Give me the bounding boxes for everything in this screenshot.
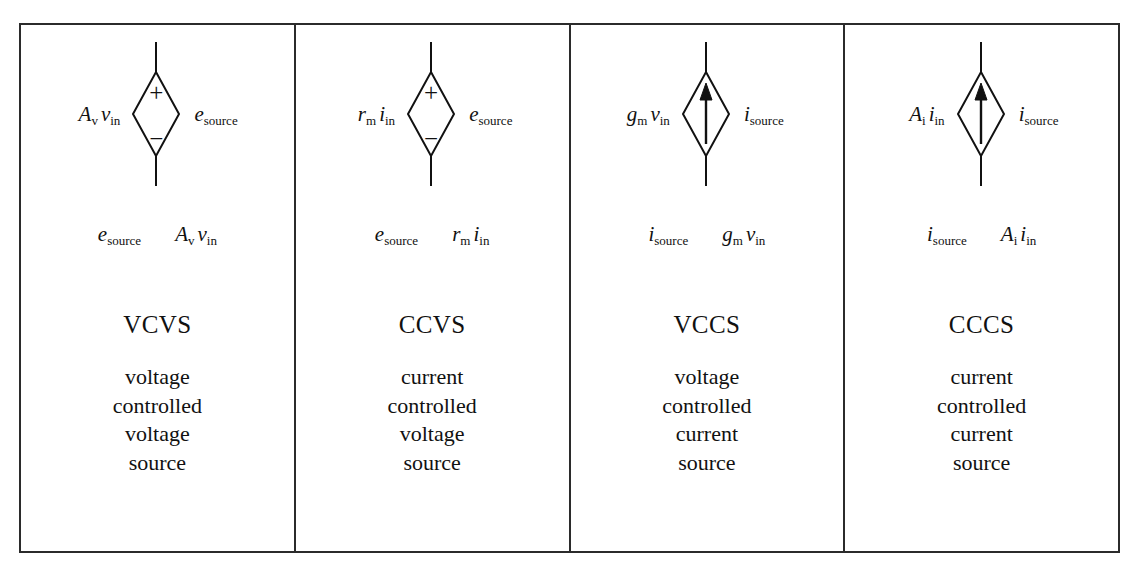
control-quantity-base: g [627, 102, 638, 126]
source-description: currentcontrolledcurrentsource [937, 363, 1026, 477]
control-quantity: gmvin [627, 102, 670, 126]
relation-rhs-base: g [722, 222, 733, 246]
description-line: source [113, 449, 202, 478]
control-quantity-base-2: v [101, 102, 110, 126]
control-quantity-base: A [909, 102, 922, 126]
relation-row: esourcermiin [296, 203, 569, 265]
minus-sign: − [128, 126, 184, 151]
relation-lhs: isource [648, 222, 688, 247]
control-quantity-subscript-2: in [110, 113, 120, 128]
source-description: currentcontrolledvoltagesource [388, 363, 477, 477]
description-line: current [662, 420, 751, 449]
description-line: voltage [113, 363, 202, 392]
description-line: current [388, 363, 477, 392]
control-quantity-base-2: i [929, 102, 935, 126]
source-panel-ccvs: rmiin+−esourceesourcermiinCCVScurrentcon… [296, 25, 571, 551]
plus-sign: + [403, 80, 459, 105]
symbol-row: Aiiinisource [845, 25, 1118, 203]
relation-row: isourceAiiin [845, 203, 1118, 265]
relation-rhs-subscript-2: in [207, 233, 217, 248]
relation-rhs-base-2: v [197, 222, 206, 246]
control-quantity-subscript-2: in [385, 113, 395, 128]
symbol-row: Avvin+−esource [21, 25, 294, 203]
control-quantity: Avvin [79, 102, 121, 126]
symbol-row: gmvinisource [571, 25, 844, 203]
control-quantity: rmiin [358, 102, 395, 126]
relation-rhs: rmiin [452, 222, 489, 247]
description-line: voltage [662, 363, 751, 392]
relation-rhs-subscript-2: in [479, 233, 489, 248]
control-quantity-subscript: i [922, 113, 926, 128]
relation-row: esourceAvvin [21, 203, 294, 265]
relation-rhs-base: A [1001, 222, 1014, 246]
description-line: source [937, 449, 1026, 478]
symbol-row: rmiin+−esource [296, 25, 569, 203]
source-quantity-subscript: source [750, 113, 784, 128]
control-quantity: Aiiin [909, 102, 944, 126]
source-quantity: isource [744, 102, 784, 126]
source-description: voltagecontrolledcurrentsource [662, 363, 751, 477]
current-source-symbol [953, 40, 1009, 188]
relation-rhs: gmvin [722, 222, 765, 247]
minus-sign: − [403, 126, 459, 151]
description-line: controlled [388, 392, 477, 421]
source-acronym: VCCS [673, 311, 740, 339]
source-panel-vccs: gmvinisourceisourcegmvinVCCSvoltagecontr… [571, 25, 846, 551]
relation-lhs: isource [927, 222, 967, 247]
source-quantity-label: esource [184, 104, 286, 125]
source-panel-cccs: AiiinisourceisourceAiiinCCCScurrentcontr… [845, 25, 1118, 551]
description-line: current [937, 363, 1026, 392]
description-line: source [662, 449, 751, 478]
control-quantity-label: Avvin [28, 104, 128, 125]
relation-rhs-base-2: v [746, 222, 755, 246]
relation-rhs: Aiiin [1001, 222, 1036, 247]
control-quantity-label: gmvin [578, 104, 678, 125]
control-quantity-base: A [79, 102, 92, 126]
source-acronym: VCVS [123, 311, 191, 339]
relation-lhs-base: i [927, 222, 933, 246]
plus-sign: + [128, 80, 184, 105]
source-quantity-subscript: source [204, 113, 238, 128]
source-quantity-base: i [744, 102, 750, 126]
relation-rhs-subscript: v [188, 233, 195, 248]
control-quantity-label: Aiiin [853, 104, 953, 125]
description-line: voltage [388, 420, 477, 449]
control-quantity-subscript: v [91, 113, 98, 128]
relation-lhs: esource [375, 222, 418, 247]
relation-lhs: esource [98, 222, 141, 247]
control-quantity-subscript: m [366, 113, 376, 128]
source-quantity-subscript: source [1024, 113, 1058, 128]
control-quantity-base-2: v [650, 102, 659, 126]
relation-rhs-subscript: m [460, 233, 470, 248]
source-acronym: CCCS [949, 311, 1015, 339]
relation-lhs-base: e [375, 222, 384, 246]
description-line: voltage [113, 420, 202, 449]
source-panel-vcvs: Avvin+−esourceesourceAvvinVCVSvoltagecon… [21, 25, 296, 551]
controlled-source-figure: Avvin+−esourceesourceAvvinVCVSvoltagecon… [19, 23, 1120, 553]
description-line: controlled [113, 392, 202, 421]
relation-rhs-base: A [175, 222, 188, 246]
relation-rhs-subscript-2: in [755, 233, 765, 248]
description-line: controlled [937, 392, 1026, 421]
source-description: voltagecontrolledvoltagesource [113, 363, 202, 477]
voltage-source-symbol: +− [128, 40, 184, 188]
source-quantity-subscript: source [478, 113, 512, 128]
control-quantity-subscript-2: in [660, 113, 670, 128]
source-quantity-label: isource [1009, 104, 1111, 125]
control-quantity-subscript: m [637, 113, 647, 128]
relation-rhs-subscript: i [1014, 233, 1018, 248]
control-quantity-base: r [358, 102, 366, 126]
relation-rhs: Avvin [175, 222, 217, 247]
current-source-symbol [678, 40, 734, 188]
description-line: controlled [662, 392, 751, 421]
relation-lhs-base: e [98, 222, 107, 246]
control-quantity-subscript-2: in [935, 113, 945, 128]
source-quantity: isource [1019, 102, 1059, 126]
source-quantity-base: e [194, 102, 203, 126]
relation-lhs-subscript: source [107, 233, 141, 248]
relation-lhs-subscript: source [933, 233, 967, 248]
source-quantity: esource [194, 102, 237, 126]
description-line: source [388, 449, 477, 478]
description-line: current [937, 420, 1026, 449]
relation-rhs-subscript: m [733, 233, 743, 248]
